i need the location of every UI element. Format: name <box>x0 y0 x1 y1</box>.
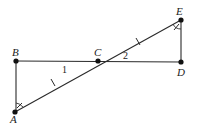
segment-ae <box>15 20 181 112</box>
point-b <box>13 58 18 63</box>
tick-mark-ac <box>51 79 55 86</box>
label-c: C <box>94 46 102 58</box>
point-c <box>95 58 100 63</box>
diagram-canvas: B A C D E 1 2 <box>0 0 197 125</box>
point-d <box>178 59 183 64</box>
label-a: A <box>9 113 17 125</box>
geometry-figure: B A C D E 1 2 <box>0 0 197 125</box>
angle-label-1: 1 <box>62 64 67 75</box>
label-e: E <box>175 5 183 17</box>
label-b: B <box>12 46 19 58</box>
angle-label-2: 2 <box>123 50 128 61</box>
point-e <box>178 17 183 22</box>
label-d: D <box>176 66 185 78</box>
